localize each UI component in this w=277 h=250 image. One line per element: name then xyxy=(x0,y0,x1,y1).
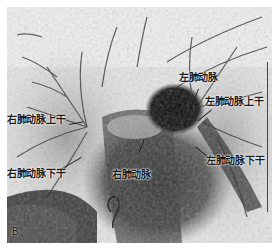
angiogram-image: 左肺动脉 左肺动脉上干 右肺动脉上干 右肺动脉下干 右肺动脉 左肺动脉下干 B xyxy=(7,7,272,243)
panel-letter: B xyxy=(12,226,19,237)
label-left-pulmonary-artery: 左肺动脉 xyxy=(179,72,218,83)
label-right-upper-trunk: 右肺动脉上干 xyxy=(7,114,65,125)
right-edge-marker-line xyxy=(267,62,268,212)
label-left-lower-trunk: 左肺动脉下干 xyxy=(206,155,264,166)
label-left-upper-trunk: 左肺动脉上干 xyxy=(205,96,263,107)
label-right-lower-trunk: 右肺动脉下干 xyxy=(7,168,65,179)
angiogram-rendering xyxy=(7,7,272,243)
label-right-pulmonary-artery: 右肺动脉 xyxy=(112,169,151,180)
